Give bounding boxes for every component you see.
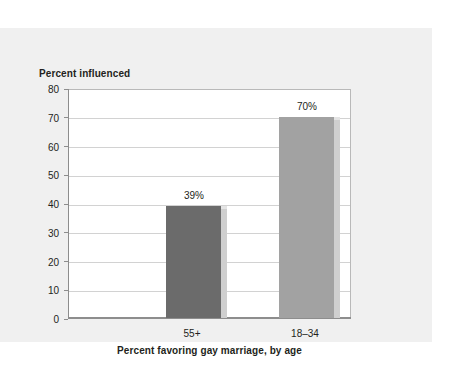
bar-front-face [279,117,334,318]
y-tick-label: 20 [27,256,59,267]
y-tick-mark [64,290,68,291]
y-tick-mark [64,204,68,205]
y-tick-mark [64,117,68,118]
bar-top-face [221,206,227,209]
y-tick-label: 0 [27,314,59,325]
y-tick-label: 40 [27,199,59,210]
y-tick-mark [64,175,68,176]
y-tick-label: 50 [27,170,59,181]
bar-side-face [221,209,227,318]
x-tick-label: 18–34 [260,328,350,339]
plot-area [68,89,351,319]
bar-value-label: 70% [277,101,337,112]
figure-panel: Percent influenced Percent favoring gay … [0,28,432,342]
bar-value-label: 39% [164,190,224,201]
bar-top-face [334,117,340,120]
y-tick-mark [64,261,68,262]
x-tick-label: 55+ [147,328,237,339]
y-axis-title: Percent influenced [39,68,130,79]
y-tick-label: 10 [27,285,59,296]
y-tick-mark [64,89,68,90]
bar-front-face [166,206,221,318]
y-tick-label: 30 [27,227,59,238]
bar-side-face [334,120,340,318]
bar[interactable] [279,117,334,318]
y-tick-mark [64,232,68,233]
y-tick-label: 60 [27,141,59,152]
y-tick-label: 80 [27,84,59,95]
y-tick-mark [64,319,68,320]
bar[interactable] [166,206,221,318]
x-axis-title: Percent favoring gay marriage, by age [68,345,351,356]
y-tick-mark [64,146,68,147]
y-tick-label: 70 [27,112,59,123]
